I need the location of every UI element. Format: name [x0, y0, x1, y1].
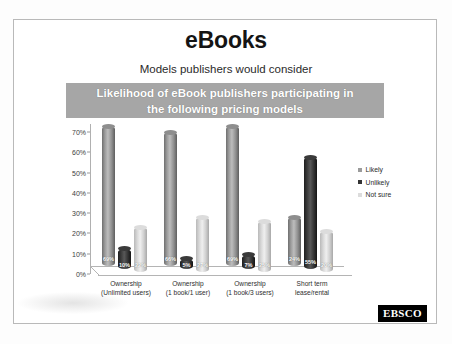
bar-value-label: 22% — [132, 262, 149, 268]
chart-legend: LikelyUnlikelyNot sure — [358, 166, 428, 204]
bar-likely: 69% — [102, 126, 115, 266]
bar-likely: 24% — [288, 217, 301, 266]
ebsco-logo: EBSCO — [378, 305, 427, 322]
legend-swatch-icon — [358, 193, 362, 197]
plot-area: 69%10%22%66%5%27%69%7%25%24%55%20% — [90, 126, 348, 274]
bar-likely: 69% — [226, 126, 239, 266]
bar-value-label: 10% — [116, 262, 133, 268]
bar-value-label: 24% — [286, 256, 303, 262]
bar-cap — [196, 215, 209, 220]
y-axis-tick-label: 30% — [72, 210, 86, 217]
bar-group: 69%7%25% — [226, 124, 274, 266]
y-axis-tick-label: 70% — [72, 129, 86, 136]
bar-value-label: 69% — [100, 256, 117, 262]
slide-root: eBooks Models publishers would consider … — [0, 0, 452, 344]
x-axis-category-label: Short termlease/rental — [274, 279, 350, 297]
y-axis-tick-label: 40% — [72, 189, 86, 196]
bar-group: 66%5%27% — [164, 124, 212, 266]
chart-title-banner: Likelihood of eBook publishers participa… — [66, 83, 384, 118]
bar-likely: 66% — [164, 132, 177, 266]
bar-cap — [226, 124, 239, 129]
bar-cap — [258, 219, 271, 224]
floor-front-edge — [98, 275, 352, 276]
bar-cap — [242, 252, 255, 257]
bar-not-sure: 22% — [134, 227, 147, 272]
floor-side-edge — [90, 266, 100, 276]
banner-line-2: the following pricing models — [66, 101, 384, 117]
page-title: eBooks — [0, 27, 452, 54]
y-axis: 0%10%20%30%40%50%60%70% — [58, 124, 90, 274]
legend-swatch-icon — [358, 168, 362, 172]
bar-unlikely: 10% — [118, 249, 131, 269]
banner-line-1: Likelihood of eBook publishers participa… — [66, 85, 384, 101]
legend-label: Unlikely — [366, 179, 390, 186]
y-axis-tick-label: 20% — [72, 230, 86, 237]
bar-cap — [320, 229, 333, 234]
y-axis-tick-label: 0% — [76, 271, 86, 278]
bar-value-label: 5% — [178, 262, 195, 268]
bar-unlikely: 7% — [242, 255, 255, 269]
legend-label: Not sure — [366, 191, 392, 198]
bar-group: 24%55%20% — [288, 124, 336, 266]
bar-value-label: 66% — [162, 256, 179, 262]
bar-value-label: 55% — [302, 259, 319, 265]
bar-not-sure: 25% — [258, 221, 271, 272]
y-axis-tick-label: 10% — [72, 250, 86, 257]
bar-value-label: 20% — [318, 262, 335, 268]
bar-not-sure: 27% — [196, 217, 209, 272]
bar-cap — [134, 225, 147, 230]
legend-item-unlikely[interactable]: Unlikely — [358, 179, 428, 186]
bar-value-label: 7% — [240, 262, 257, 268]
x-axis-category-labels: Ownership(Unlimited users)Ownership(1 bo… — [90, 279, 360, 305]
bar-value-label: 25% — [256, 262, 273, 268]
bar-not-sure: 20% — [320, 231, 333, 272]
bar-value-label: 27% — [194, 262, 211, 268]
bar-cap — [288, 215, 301, 220]
bar-group: 69%10%22% — [102, 124, 150, 266]
legend-label: Likely — [366, 166, 383, 173]
bar-value-label: 69% — [224, 256, 241, 262]
category-label-line: Short term — [274, 279, 350, 288]
bar-cap — [118, 246, 131, 251]
bar-cap — [164, 130, 177, 135]
bar-cap — [102, 124, 115, 129]
bar-cap — [304, 155, 317, 160]
bar-unlikely: 5% — [180, 259, 193, 269]
legend-item-not-sure[interactable]: Not sure — [358, 191, 428, 198]
page-subtitle: Models publishers would consider — [0, 63, 452, 75]
y-axis-tick-label: 60% — [72, 149, 86, 156]
bar-cap — [180, 256, 193, 261]
bar-chart: 0%10%20%30%40%50%60%70% 69%10%22%66%5%27… — [58, 124, 430, 304]
legend-item-likely[interactable]: Likely — [358, 166, 428, 173]
y-axis-tick-label: 50% — [72, 169, 86, 176]
bar-unlikely: 55% — [304, 157, 317, 269]
legend-swatch-icon — [358, 180, 362, 184]
category-label-line: lease/rental — [274, 288, 350, 297]
